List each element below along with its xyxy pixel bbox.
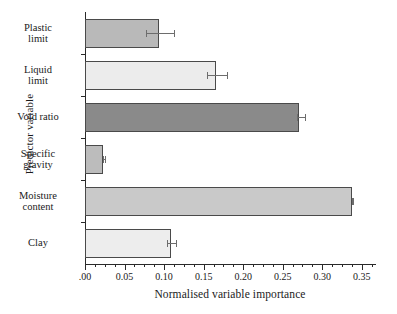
error-bar-cap [105,156,106,163]
x-axis-minor-tick [352,264,353,267]
plot-area: .000.050.100.150.200.250.300.35 Plastic … [85,12,375,264]
bar [85,145,103,174]
x-axis-minor-tick [263,264,264,267]
x-axis-tick-label: .00 [79,271,92,282]
x-axis-minor-tick [105,264,106,267]
error-bar-cap [146,30,147,37]
x-axis-tick-label: 0.20 [234,271,252,282]
x-axis-tick [85,264,86,270]
x-axis-tick [362,264,363,270]
x-axis-minor-tick [144,264,145,267]
y-axis-tick [81,222,86,223]
error-bar-line [207,75,228,76]
y-axis-category-label: Clay [0,237,77,249]
x-axis-minor-tick [372,264,373,267]
x-axis-tick [283,264,284,270]
x-axis-tick [322,264,323,270]
x-axis-tick [243,264,244,270]
y-axis-tick [81,138,86,139]
x-axis-tick-label: 0.35 [353,271,371,282]
y-axis-category-label: Liquid limit [0,64,77,87]
y-axis-category-label: Plastic limit [0,22,77,45]
x-axis-minor-tick [312,264,313,267]
x-axis-minor-tick [184,264,185,267]
chart-figure: Predictor variable Normalised variable i… [0,0,397,314]
x-axis-minor-tick [194,264,195,267]
bar [85,229,171,258]
error-bar-line [167,243,176,244]
error-bar-cap [174,30,175,37]
x-axis-minor-tick [342,264,343,267]
bar [85,103,299,132]
x-axis-minor-tick [332,264,333,267]
y-axis-tick [81,180,86,181]
x-axis-tick [204,264,205,270]
error-bar-line [146,33,174,34]
x-axis-minor-tick [302,264,303,267]
y-axis-category-label: Specific gravity [0,148,77,171]
x-axis-minor-tick [223,264,224,267]
y-axis-tick [81,54,86,55]
error-bar-cap [297,114,298,121]
bar [85,61,216,90]
error-bar-cap [305,114,306,121]
error-bar-cap [167,240,168,247]
x-axis-tick-label: 0.05 [116,271,134,282]
x-axis-minor-tick [253,264,254,267]
x-axis-tick-label: 0.30 [314,271,332,282]
bar [85,187,352,216]
error-bar-cap [176,240,177,247]
x-axis-tick-label: 0.15 [195,271,213,282]
x-axis-minor-tick [95,264,96,267]
y-axis-tick [81,96,86,97]
x-axis-minor-tick [214,264,215,267]
error-bar-line [297,117,305,118]
x-axis-tick-label: 0.10 [155,271,173,282]
y-axis-category-label: Moisture content [0,190,77,213]
x-axis-minor-tick [154,264,155,267]
x-axis-tick [125,264,126,270]
y-axis-category-label: Void ratio [0,111,77,123]
x-axis-tick-label: 0.25 [274,271,292,282]
x-axis-minor-tick [174,264,175,267]
x-axis-minor-tick [134,264,135,267]
error-bar-cap [227,72,228,79]
x-axis-tick [164,264,165,270]
error-bar-cap [207,72,208,79]
x-axis-minor-tick [273,264,274,267]
x-axis-minor-tick [233,264,234,267]
x-axis-minor-tick [115,264,116,267]
x-axis-title: Normalised variable importance [85,288,375,300]
error-bar-cap [353,198,354,205]
x-axis-minor-tick [293,264,294,267]
